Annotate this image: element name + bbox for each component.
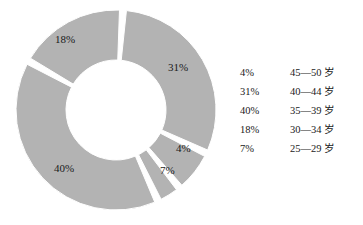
legend-row: 4%45—50 岁	[240, 64, 360, 83]
slice-percent-label: 40%	[54, 162, 74, 174]
legend-age-range: 30—34 岁	[280, 121, 334, 136]
legend-age-range: 25—29 岁	[280, 140, 334, 155]
legend-percent: 7%	[240, 143, 280, 154]
donut-slice-group	[16, 10, 216, 210]
donut-slice[interactable]	[121, 11, 216, 150]
pie-chart-figure: 31%7%4%40%18% 4%45—50 岁31%40—44 岁40%35—3…	[0, 0, 363, 225]
chart-legend: 4%45—50 岁31%40—44 岁40%35—39 岁18%30—34 岁7…	[240, 64, 360, 159]
legend-row: 40%35—39 岁	[240, 102, 360, 121]
legend-percent: 4%	[240, 67, 280, 78]
legend-age-range: 40—44 岁	[280, 83, 334, 98]
donut-chart-svg	[0, 0, 232, 225]
legend-age-range: 45—50 岁	[280, 64, 334, 79]
slice-percent-label: 31%	[168, 61, 188, 73]
legend-age-range: 35—39 岁	[280, 102, 334, 117]
donut-chart: 31%7%4%40%18%	[0, 0, 232, 225]
legend-row: 18%30—34 岁	[240, 121, 360, 140]
legend-percent: 40%	[240, 105, 280, 116]
slice-percent-label: 4%	[176, 142, 191, 154]
legend-percent: 18%	[240, 124, 280, 135]
slice-percent-label: 18%	[55, 33, 75, 45]
legend-row: 31%40—44 岁	[240, 83, 360, 102]
legend-percent: 31%	[240, 86, 280, 97]
slice-percent-label: 7%	[160, 164, 175, 176]
donut-slice[interactable]	[16, 64, 155, 210]
legend-row: 7%25—29 岁	[240, 140, 360, 159]
